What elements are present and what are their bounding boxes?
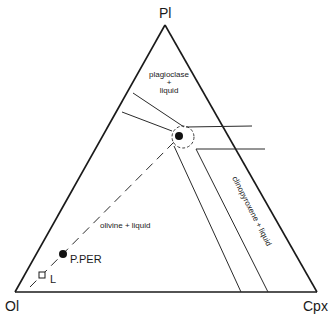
edge-pl-cpx [165, 25, 317, 292]
olivine-control-line [30, 138, 178, 287]
vertex-label-pl: Pl [159, 5, 171, 21]
plag-boundary-upper-right [186, 126, 252, 127]
l-square [39, 272, 45, 278]
clinopyroxene-field-label: clinopyroxene + liquid [230, 175, 273, 248]
ternary-diagram: P.PER L Pl Ol Cpx plagioclase + liquid o… [0, 0, 335, 320]
plagioclase-field-label: plagioclase + liquid [149, 70, 190, 95]
edge-ol-pl [15, 25, 165, 292]
vertex-label-ol: Ol [5, 298, 19, 314]
plag-boundary-lower-left [122, 112, 172, 131]
vertex-label-cpx: Cpx [303, 298, 328, 314]
plag-boundary-upper-left [133, 93, 184, 127]
junction-dot [175, 132, 183, 140]
junction-point [172, 126, 194, 148]
plagioclase-boundary-band [122, 93, 265, 149]
l-point: L [39, 272, 56, 285]
pper-point: P.PER [59, 250, 102, 265]
olivine-field-label: olivine + liquid [100, 221, 150, 230]
l-label: L [50, 273, 56, 285]
plag-label-line3: liquid [160, 86, 179, 95]
pper-dot [59, 250, 67, 258]
pper-label: P.PER [70, 253, 102, 265]
